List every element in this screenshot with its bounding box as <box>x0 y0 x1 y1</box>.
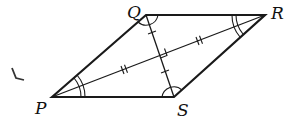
diagonal-pr <box>52 15 265 97</box>
rhombus-diagram: Q R P S <box>0 0 308 130</box>
vertex-label-p: P <box>35 100 46 117</box>
vertex-label-s: S <box>177 102 189 119</box>
stray-mark <box>12 68 24 80</box>
vertex-label-q: Q <box>127 4 141 21</box>
vertex-label-r: R <box>271 5 284 22</box>
diagonal-qs <box>146 15 174 97</box>
right-angle-marker <box>161 49 168 59</box>
